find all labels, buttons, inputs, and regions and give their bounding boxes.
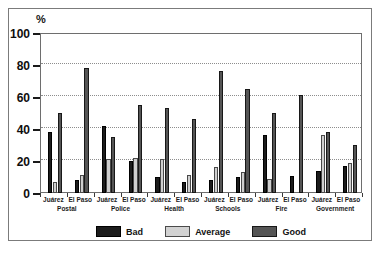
bar [138,105,142,193]
legend-entry: Average [165,226,230,237]
y-axis-tick-label: 0 [23,188,30,201]
bar [48,132,52,193]
bar [111,137,115,193]
y-axis-tick-label: 100 [10,28,30,41]
x-axis-labels: JuárezEl PasoJuárezEl PasoJuárezEl PasoJ… [40,196,362,220]
chart-figure: % 020406080100 JuárezEl PasoJuárezEl Pas… [0,0,382,255]
legend-swatch-bad [96,226,121,237]
bar [75,180,79,193]
y-axis-unit-label: % [36,14,46,25]
bar [209,180,213,193]
bar [58,113,62,193]
bar [129,161,133,193]
bar [299,95,303,193]
legend-label: Bad [126,227,143,237]
bar [84,68,88,193]
caption-strip [0,248,382,255]
legend-label: Average [195,227,230,237]
bar [133,158,137,193]
y-axis-tick: 0 [33,193,40,195]
bar [343,166,347,193]
bar [348,163,352,193]
y-axis-tick: 100 [33,33,40,35]
bar [165,108,169,193]
y-axis-tick: 20 [33,161,40,163]
y-axis-tick-label: 60 [17,92,30,105]
bar [187,175,191,193]
bar [53,182,57,193]
legend-swatch-good [252,226,277,237]
bar [160,159,164,193]
bar [263,135,267,193]
bar [241,172,245,193]
bar [214,167,218,193]
bar [267,179,271,193]
bar [219,71,223,193]
legend-entry: Good [252,226,306,237]
y-axis-tick-label: 40 [17,124,30,137]
x-axis-group-label: Government [302,205,368,213]
bar [326,132,330,193]
legend-entry: Bad [96,226,143,237]
y-axis-tick: 40 [33,129,40,131]
legend-label: Good [282,227,306,237]
bar [80,175,84,193]
y-axis-tick: 80 [33,65,40,67]
y-axis-tick-label: 20 [17,156,30,169]
bar [182,182,186,193]
bar [353,145,357,193]
bar [155,177,159,193]
bar [316,171,320,193]
bars-layer [40,33,362,193]
bar [272,113,276,193]
bar [106,159,110,193]
bar [290,176,294,193]
bar [245,89,249,193]
chart-legend: BadAverageGood [96,224,306,239]
bar [192,119,196,193]
bar [102,126,106,193]
bar [236,177,240,193]
bar [321,135,325,193]
y-axis-tick-label: 80 [17,60,30,73]
legend-swatch-average [165,226,190,237]
y-axis-tick: 60 [33,97,40,99]
x-axis-label: El Paso [331,196,366,204]
